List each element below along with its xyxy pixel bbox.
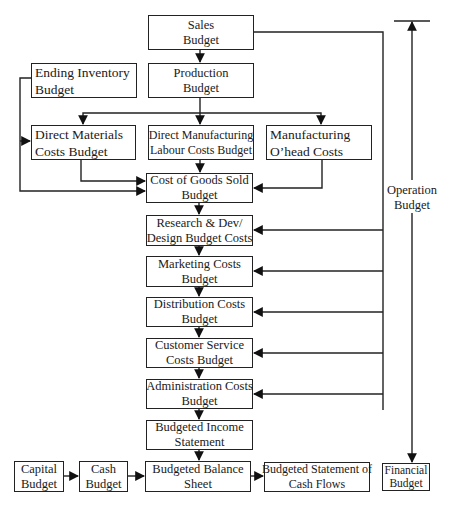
direct-materials-node: Direct Materials Costs Budget xyxy=(31,125,136,160)
node-label: Budget xyxy=(183,81,219,96)
node-label: Ending Inventory xyxy=(35,64,130,81)
node-label: Direct Manufacturing xyxy=(149,128,253,143)
node-label: Labour Costs Budget xyxy=(150,143,252,158)
node-label: Cost of Goods Sold xyxy=(150,173,248,188)
node-label: Budgeted Statement of xyxy=(262,462,372,477)
node-label: Budget xyxy=(85,477,121,492)
ending-inventory-budget-node: Ending Inventory Budget xyxy=(31,63,137,98)
node-label: Budget xyxy=(183,33,219,48)
node-label: Research & Dev/ xyxy=(156,216,242,231)
node-label: Financial xyxy=(385,464,428,477)
node-label: Production xyxy=(174,66,229,81)
node-label: Sheet xyxy=(184,477,212,492)
node-label: Budget xyxy=(181,394,217,409)
node-label: Direct Materials xyxy=(35,126,123,143)
node-label: Customer Service xyxy=(155,338,244,353)
node-label: O’head Costs xyxy=(270,143,343,160)
node-label: Budgeted Balance xyxy=(152,462,243,477)
research-dev-node: Research & Dev/ Design Budget Costs xyxy=(146,215,253,246)
node-label: Marketing Costs xyxy=(158,257,241,272)
capital-budget-node: Capital Budget xyxy=(14,461,64,492)
balance-sheet-node: Budgeted Balance Sheet xyxy=(145,461,251,492)
node-label: Budget xyxy=(181,312,217,327)
cogs-budget-node: Cost of Goods Sold Budget xyxy=(146,173,253,203)
sales-budget-node: Sales Budget xyxy=(148,15,254,50)
node-label: Manufacturing xyxy=(270,126,350,143)
node-label: Budget xyxy=(21,477,57,492)
node-label: Costs Budget xyxy=(166,353,233,368)
node-label: Budget xyxy=(35,81,74,98)
distribution-node: Distribution Costs Budget xyxy=(146,297,253,327)
node-label: Administration Costs xyxy=(146,379,253,394)
operation-budget-label: Operation Budget xyxy=(386,183,438,213)
node-label: Cash Flows xyxy=(289,477,345,492)
node-label: Budget xyxy=(181,188,217,203)
node-label: Design Budget Costs xyxy=(147,231,253,246)
node-label: Budget xyxy=(181,272,217,287)
production-budget-node: Production Budget xyxy=(148,63,254,98)
node-label: Distribution Costs xyxy=(154,297,245,312)
cash-flows-node: Budgeted Statement of Cash Flows xyxy=(264,462,370,492)
node-label: Cash xyxy=(91,462,116,477)
direct-labour-node: Direct Manufacturing Labour Costs Budget xyxy=(148,125,254,160)
node-label: Capital xyxy=(21,462,57,477)
node-label: Sales xyxy=(188,18,214,33)
marketing-node: Marketing Costs Budget xyxy=(146,256,253,287)
cash-budget-node: Cash Budget xyxy=(79,461,128,492)
node-label: Statement xyxy=(175,435,225,450)
node-label: Budget xyxy=(389,477,422,490)
administration-node: Administration Costs Budget xyxy=(146,379,253,409)
customer-service-node: Customer Service Costs Budget xyxy=(146,338,253,368)
income-statement-node: Budgeted Income Statement xyxy=(146,420,253,450)
financial-budget-node: Financial Budget xyxy=(382,463,430,491)
manufacturing-overhead-node: Manufacturing O’head Costs xyxy=(266,125,372,160)
node-label: Costs Budget xyxy=(35,143,107,160)
node-label: Budgeted Income xyxy=(155,420,244,435)
